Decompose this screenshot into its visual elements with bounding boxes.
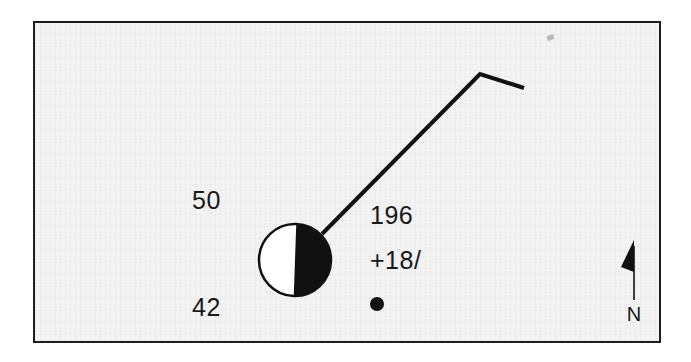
strike-label: 196 <box>370 203 413 228</box>
map-graphics-layer <box>35 23 659 341</box>
beachball-black-quadrant <box>294 224 332 297</box>
fault-trace-polyline <box>322 74 524 234</box>
north-arrow-head <box>621 240 634 272</box>
slip-label: +18/ <box>370 248 421 273</box>
epicenter-dot <box>370 297 384 311</box>
figure-root: 50 42 196 +18/ N <box>0 0 691 362</box>
north-arrow-label: N <box>612 304 656 324</box>
north-arrow: N <box>612 236 656 330</box>
north-arrow-icon <box>612 236 656 306</box>
depth-label-upper: 50 <box>192 188 221 213</box>
depth-label-lower: 42 <box>192 295 221 320</box>
map-frame: 50 42 196 +18/ N <box>33 21 661 343</box>
focal-mechanism-beachball <box>258 223 332 297</box>
